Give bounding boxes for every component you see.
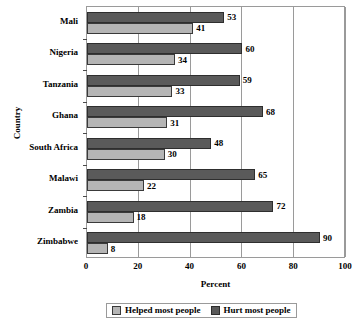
bar-row: 72 xyxy=(87,201,346,212)
bar-value-label: 31 xyxy=(167,118,179,127)
bar-hurt xyxy=(87,12,224,23)
category-label-nigeria: Nigeria xyxy=(50,48,79,57)
bar-group: 6831 xyxy=(87,102,344,134)
legend-item: Helped most people xyxy=(112,306,201,315)
bar-value-label: 22 xyxy=(144,181,156,190)
bar-value-label: 90 xyxy=(320,233,332,242)
bar-hurt xyxy=(87,232,320,243)
x-tick-label: 0 xyxy=(84,261,89,271)
bar-value-label: 18 xyxy=(134,213,146,222)
category-label-mali: Mali xyxy=(60,17,78,26)
bar-group: 5933 xyxy=(87,70,344,102)
bar-helped xyxy=(87,23,193,34)
bar-row: 59 xyxy=(87,75,346,86)
x-tick-label: 60 xyxy=(237,261,246,271)
legend-label: Helped most people xyxy=(125,306,201,315)
x-tick-label: 20 xyxy=(133,261,142,271)
bar-group: 6034 xyxy=(87,39,344,71)
category-label-ghana: Ghana xyxy=(52,111,78,120)
bar-row: 8 xyxy=(87,243,346,254)
bar-value-label: 53 xyxy=(224,13,236,22)
bar-group: 7218 xyxy=(87,196,344,228)
bar-row: 33 xyxy=(87,86,346,97)
bar-row: 18 xyxy=(87,212,346,223)
bar-value-label: 68 xyxy=(263,107,275,116)
bar-hurt xyxy=(87,201,273,212)
legend-swatch-hurt xyxy=(211,306,220,315)
bar-value-label: 59 xyxy=(240,76,252,85)
x-tick-label: 40 xyxy=(185,261,194,271)
bar-hurt xyxy=(87,138,211,149)
bar-helped xyxy=(87,86,172,97)
bar-row: 48 xyxy=(87,138,346,149)
bar-row: 31 xyxy=(87,117,346,128)
bar-row: 22 xyxy=(87,180,346,191)
bar-row: 90 xyxy=(87,232,346,243)
category-label-zimbabwe: Zimbabwe xyxy=(37,237,78,246)
category-label-zambia: Zambia xyxy=(48,206,78,215)
bar-row: 60 xyxy=(87,43,346,54)
bar-value-label: 33 xyxy=(172,87,184,96)
plot-area: 5341603459336831483065227218908 xyxy=(86,6,345,258)
bar-row: 65 xyxy=(87,169,346,180)
bar-value-label: 8 xyxy=(108,244,116,253)
bar-row: 34 xyxy=(87,54,346,65)
bar-hurt xyxy=(87,75,240,86)
x-axis-tick-labels: 020406080100 xyxy=(86,261,345,275)
bar-helped xyxy=(87,54,175,65)
bar-row: 68 xyxy=(87,106,346,117)
bar-helped xyxy=(87,117,167,128)
category-label-south-africa: South Africa xyxy=(29,143,78,152)
bar-group: 5341 xyxy=(87,7,344,39)
x-axis-title: Percent xyxy=(86,279,345,289)
bar-helped xyxy=(87,180,144,191)
bar-row: 41 xyxy=(87,23,346,34)
bar-value-label: 34 xyxy=(175,55,187,64)
bar-helped xyxy=(87,212,134,223)
bar-hurt xyxy=(87,169,255,180)
bar-value-label: 30 xyxy=(165,150,177,159)
legend-item: Hurt most people xyxy=(211,306,291,315)
bar-chart: Country MaliNigeriaTanzaniaGhanaSouth Af… xyxy=(0,0,360,328)
x-tick-label: 100 xyxy=(338,261,352,271)
bar-hurt xyxy=(87,106,263,117)
bar-helped xyxy=(87,243,108,254)
chart-legend: Helped most peopleHurt most people xyxy=(106,303,297,318)
bar-group: 6522 xyxy=(87,165,344,197)
bar-value-label: 41 xyxy=(193,24,205,33)
category-axis-labels: MaliNigeriaTanzaniaGhanaSouth AfricaMala… xyxy=(0,6,82,258)
bar-group: 4830 xyxy=(87,133,344,165)
bar-row: 30 xyxy=(87,149,346,160)
bar-hurt xyxy=(87,43,242,54)
category-label-malawi: Malawi xyxy=(49,174,78,183)
legend-label: Hurt most people xyxy=(224,306,291,315)
legend-swatch-helped xyxy=(112,306,121,315)
bar-value-label: 48 xyxy=(211,139,223,148)
bar-row: 53 xyxy=(87,12,346,23)
bar-helped xyxy=(87,149,165,160)
bar-group: 908 xyxy=(87,228,344,260)
bar-value-label: 65 xyxy=(255,170,267,179)
x-tick-label: 80 xyxy=(289,261,298,271)
bar-value-label: 72 xyxy=(273,202,285,211)
bar-value-label: 60 xyxy=(242,44,254,53)
category-label-tanzania: Tanzania xyxy=(43,80,78,89)
